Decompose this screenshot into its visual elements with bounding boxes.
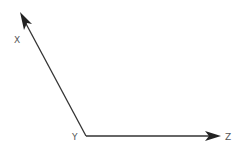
angle-diagram: X Y Z xyxy=(0,0,239,149)
x-label: X xyxy=(14,35,20,45)
z-label: Z xyxy=(225,132,231,142)
x-arrowhead-icon xyxy=(20,12,32,30)
y-label: Y xyxy=(71,132,78,142)
x-arm-line xyxy=(24,20,86,136)
